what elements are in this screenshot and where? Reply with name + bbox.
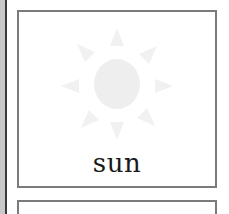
sun-ray — [61, 79, 79, 93]
sun-icon — [57, 24, 177, 144]
sun-ray — [139, 46, 157, 64]
left-panel-divider — [5, 0, 7, 214]
sun-ray — [110, 28, 124, 46]
sun-ray — [81, 110, 99, 128]
page: sun — [0, 0, 229, 214]
sun-ray — [155, 79, 173, 93]
sun-ray — [137, 108, 155, 126]
sun-ray — [110, 122, 124, 140]
card-label: sun — [19, 148, 215, 178]
word-card-next[interactable] — [17, 200, 217, 214]
sun-disc — [94, 59, 140, 109]
sun-ray — [77, 44, 95, 62]
word-card-sun[interactable]: sun — [17, 10, 217, 188]
